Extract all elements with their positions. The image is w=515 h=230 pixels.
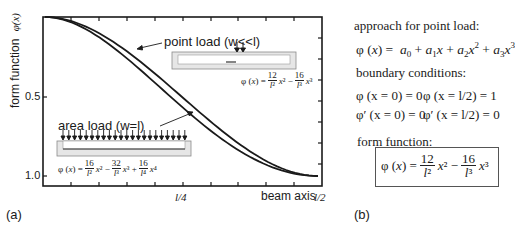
point-load-formula: φ (x) = 12l² x² − 16l³ x³ — [241, 71, 313, 90]
approach-heading: approach for point load: — [354, 18, 479, 34]
area-load-pointer — [160, 114, 189, 126]
point-load-pointer — [140, 43, 162, 48]
x-tick-label-quarter: l/4 — [175, 191, 187, 203]
x-tick-label-half: l/2 — [314, 191, 326, 203]
y-tick-label-1.0: 1.0 — [25, 169, 40, 181]
point-load-arrowhead-icon — [137, 46, 143, 51]
y-tick-label-0.5: 0.5 — [25, 90, 40, 102]
y-axis-symbol: φ(x) — [9, 13, 21, 31]
point-load-label: point load (w<<l) — [164, 34, 260, 49]
x-axis-label: beam axis — [261, 189, 316, 203]
bc-dphi-0: φ′ (x = 0) = 0 — [356, 107, 425, 123]
area-load-label: area load (w=l) — [58, 118, 144, 133]
y-axis-label: form function φ(x) — [8, 13, 22, 108]
area-load-beam-diagram — [57, 130, 191, 156]
form-function-formula: φ (x) = 12l² x² − 16l³ x³ — [381, 152, 489, 179]
boundary-heading: boundary conditions: — [356, 65, 466, 81]
bc-phi-half: φ (x = l/2) = 1 — [423, 88, 497, 104]
y-axis-label-text: form function — [8, 39, 22, 108]
panel-a-label: (a) — [6, 207, 22, 222]
approach-formula: φ (x) = a0 + a1x + a2x2 + a3x3 — [356, 40, 515, 59]
bc-phi-0: φ (x = 0) = 0 — [356, 88, 423, 104]
area-load-formula: φ (x) = 16l² x² − 32l³ x³ + 16l⁴ x⁴ — [58, 159, 157, 178]
bc-dphi-half: φ′ (x = l/2) = 0 — [423, 107, 500, 123]
panel-b-label: (b) — [354, 207, 370, 222]
